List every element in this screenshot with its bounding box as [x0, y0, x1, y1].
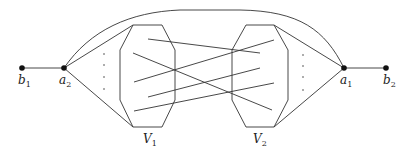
- edge-a1-v2-bottom: [274, 68, 344, 127]
- label-a1: a1: [340, 73, 352, 89]
- ellipsis-dots-left: [103, 53, 105, 90]
- label-v1: V1: [143, 132, 157, 148]
- vertex-a2: [61, 65, 67, 71]
- set-v1-region: [120, 25, 175, 127]
- set-v2-region: [232, 25, 288, 127]
- vertex-b2: [383, 65, 389, 71]
- edge-arc-a2-a1: [64, 10, 344, 68]
- label-v2: V2: [253, 132, 267, 148]
- cross-edge: [134, 83, 274, 111]
- vertex-a1: [341, 65, 347, 71]
- label-b1: b1: [18, 73, 31, 89]
- graph-diagram: b1 a2 a1 b2 V1 V2: [0, 0, 408, 152]
- edge-a1-v2-top: [274, 25, 344, 68]
- cross-edge: [148, 39, 260, 53]
- edge-a2-v1-bottom: [64, 68, 133, 127]
- label-a2: a2: [59, 73, 71, 89]
- label-b2: b2: [383, 73, 396, 89]
- ellipsis-dots-right: [302, 54, 304, 91]
- vertex-b1: [19, 65, 25, 71]
- edge-a2-v1-top: [64, 25, 133, 68]
